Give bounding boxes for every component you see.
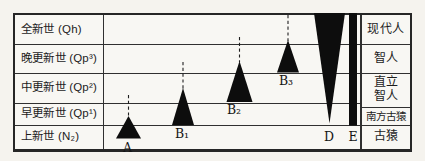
stage-cell-erectus: 直立 智人 [362,73,410,107]
stage-cell-ancient-ape: 古猿 [362,125,410,149]
stage-cell-modern-human: 现代人 [362,15,410,44]
stage-cell-sapiens: 智人 [362,44,410,73]
stage-cell-australopith: 南方古猿 [362,107,410,125]
correlation-table: 全新世 (Qh) 晚更新世 (Qp³) 中更新世 (Qp²) 早更新世 (Qp¹… [13,13,412,152]
epoch-cell-late-pleistocene: 晚更新世 (Qp³) [15,44,103,73]
epoch-cell-early-pleistocene: 早更新世 (Qp¹) [15,103,103,125]
epoch-cell-mid-pleistocene: 中更新世 (Qp²) [15,73,103,103]
figure-root: 全新世 (Qh) 晚更新世 (Qp³) 中更新世 (Qp²) 早更新世 (Qp¹… [0,0,425,161]
epoch-cell-holocene: 全新世 (Qh) [15,15,103,44]
epoch-cell-pliocene: 上新世 (N₂) [15,125,103,149]
